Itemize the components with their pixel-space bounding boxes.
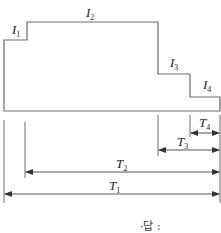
label-T3: T3 (177, 134, 188, 151)
label-I4: I4 (202, 77, 211, 94)
answer-label: ·답 : (140, 220, 161, 233)
label-T1: T1 (109, 178, 120, 195)
label-T2: T2 (116, 156, 127, 173)
label-I1: I1 (11, 22, 20, 39)
label-I2: I2 (85, 5, 94, 22)
step-load-diagram: I1 I2 I3 I4 T4 T3 T2 T1 ·답 : (0, 0, 221, 233)
load-profile-outline (4, 22, 220, 111)
label-T4: T4 (199, 115, 210, 132)
label-I3: I3 (169, 55, 178, 72)
